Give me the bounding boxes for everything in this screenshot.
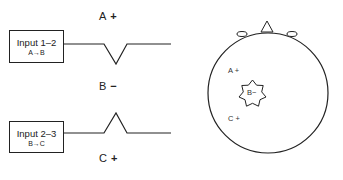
trace-channel-2 [63,113,171,133]
head-label-a: A + [228,66,239,75]
ear-icon [287,32,297,37]
input-box-1: Input 1–2 A→B [9,30,64,63]
electrode-letter: C [99,152,107,164]
electrode-label-a: A+ [99,10,117,22]
electrode-sign: + [111,152,117,164]
diagram-lines [0,0,343,180]
input-subtitle: A→B [10,48,63,57]
electrode-sign: − [110,80,116,92]
head-outline-icon [208,33,328,153]
trace-channel-1 [63,44,171,64]
electrode-letter: A [99,10,106,22]
input-box-2: Input 2–3 B→C [9,121,64,153]
head-label-c: C + [228,114,240,123]
electrode-label-c: C+ [99,152,117,164]
nose-icon [261,21,273,32]
electrode-label-b: B− [99,80,117,92]
electrode-sign: + [110,10,116,22]
ear-icon [237,32,247,37]
input-title: Input 1–2 [10,37,63,48]
input-subtitle: B→C [10,139,63,148]
electrode-letter: B [99,80,106,92]
head-label-b: B− [247,88,256,97]
input-title: Input 2–3 [10,128,63,139]
